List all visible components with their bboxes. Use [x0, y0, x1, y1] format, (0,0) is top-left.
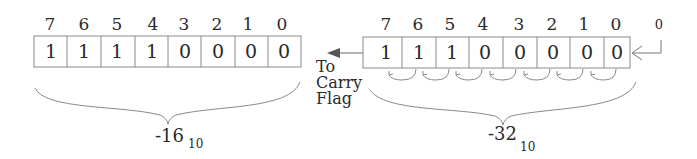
bit-cell: 1	[146, 40, 158, 62]
bit-values-after: 1 1 1 0 0 0 0 0	[380, 41, 623, 63]
decimal-base-before: 10	[188, 137, 203, 151]
carry-label-flag: Flag	[316, 89, 352, 108]
bit-index: 4	[148, 14, 159, 34]
bit-index: 7	[45, 14, 56, 34]
bit-index: 7	[381, 14, 392, 34]
register-before: 7 6 5 4 3 2 1 0 1 1 1 1 0 0 0 0	[34, 14, 301, 151]
bit-index: 6	[79, 14, 90, 34]
bit-position-labels-after: 7 6 5 4 3 2 1 0	[381, 14, 622, 34]
brace-after	[370, 82, 636, 125]
register-after: 7 6 5 4 3 2 1 0 1 1 1 0 0 0 0 0	[363, 14, 663, 154]
bit-cell: 1	[413, 41, 425, 63]
bit-cell: 1	[111, 40, 123, 62]
bit-index: 5	[445, 14, 456, 34]
bit-position-labels-before: 7 6 5 4 3 2 1 0	[45, 14, 288, 34]
bit-cell: 0	[581, 41, 593, 63]
bit-index: 1	[579, 14, 590, 34]
bit-index: 4	[478, 14, 489, 34]
bit-cell: 0	[245, 40, 257, 62]
bit-cell: 0	[479, 41, 491, 63]
bit-cell: 1	[45, 40, 57, 62]
bit-index: 3	[514, 14, 525, 34]
cell-dividers	[67, 36, 268, 67]
bit-index: 3	[179, 14, 190, 34]
bit-index: 5	[112, 14, 123, 34]
bit-cell: 0	[179, 40, 191, 62]
bit-shift-arrows	[389, 69, 616, 80]
brace-before	[35, 82, 300, 124]
bit-cell: 1	[380, 41, 392, 63]
shift-in-arrow-line	[633, 40, 661, 53]
bit-index: 2	[547, 14, 558, 34]
bit-cell: 1	[446, 41, 458, 63]
bit-cell: 0	[514, 41, 526, 63]
cell-dividers	[402, 37, 604, 68]
bit-index: 1	[243, 14, 254, 34]
bit-index: 6	[413, 14, 424, 34]
decimal-base-after: 10	[520, 140, 535, 154]
bit-index: 0	[277, 14, 288, 34]
shift-left-diagram: 7 6 5 4 3 2 1 0 1 1 1 1 0 0 0 0	[0, 0, 697, 159]
bit-cell: 1	[78, 40, 90, 62]
bit-cell: 0	[278, 40, 290, 62]
bit-index: 2	[212, 14, 223, 34]
decimal-value-after: -32	[488, 123, 517, 144]
bit-cell: 0	[212, 40, 224, 62]
shift-in-bit: 0	[655, 17, 663, 32]
bit-cell: 0	[547, 41, 559, 63]
bit-cell: 0	[611, 41, 623, 63]
carry-flag-indicator: To Carry Flag	[316, 48, 363, 108]
bit-index: 0	[611, 14, 622, 34]
decimal-value-before: -16	[155, 125, 184, 146]
